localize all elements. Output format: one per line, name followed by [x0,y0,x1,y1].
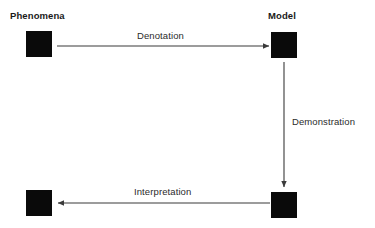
node-label-phenomena: Phenomena [10,11,65,21]
node-box-outcome [26,190,52,216]
node-box-model [271,32,297,58]
node-box-phenomena [26,31,52,57]
diagram-canvas: Phenomena Model Denotation Demonstration… [0,0,375,228]
edge-label-denotation: Denotation [137,31,184,41]
edge-label-interpretation: Interpretation [134,187,191,197]
node-box-artifact [271,192,297,218]
edge-label-demonstration: Demonstration [292,117,355,127]
node-label-model: Model [268,11,296,21]
